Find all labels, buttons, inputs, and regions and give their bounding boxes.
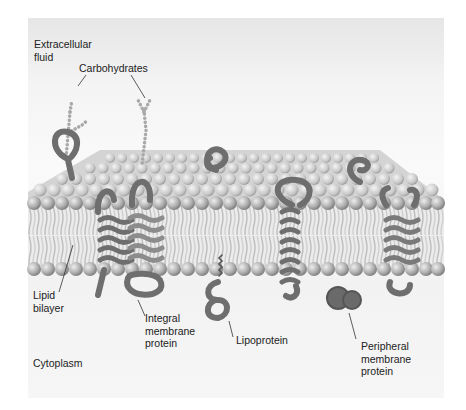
label-line: Integral	[145, 312, 195, 325]
label-peripheral-membrane-protein: Peripheral membrane protein	[361, 340, 411, 378]
label-integral-membrane-protein: Integral membrane protein	[145, 312, 195, 350]
label-cytoplasm: Cytoplasm	[33, 357, 83, 370]
label-line: Extracellular	[34, 38, 92, 51]
label-lipoprotein: Lipoprotein	[236, 334, 288, 347]
label-lipid-bilayer: Lipid bilayer	[33, 289, 64, 314]
label-line: Lipid	[33, 289, 64, 302]
label-line: protein	[145, 337, 195, 350]
label-line: bilayer	[33, 302, 64, 315]
label-line: membrane	[361, 353, 411, 366]
label-line: membrane	[145, 325, 195, 338]
label-line: protein	[361, 365, 411, 378]
label-extracellular-fluid: Extracellular fluid	[34, 38, 92, 63]
label-line: Peripheral	[361, 340, 411, 353]
label-carbohydrates: Carbohydrates	[79, 62, 148, 75]
